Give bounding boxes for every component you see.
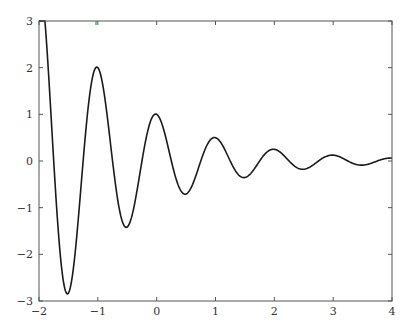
- axis-ticks: [39, 21, 392, 301]
- x-tick-label: 4: [389, 305, 396, 318]
- line-chart: −2−101234 3210−1−2−3: [0, 0, 417, 335]
- y-tick-label: −2: [17, 248, 33, 261]
- y-tick-label: 3: [26, 15, 33, 28]
- x-tick-label: −1: [90, 305, 106, 318]
- x-tick-label: 2: [271, 305, 278, 318]
- y-tick-label: 1: [26, 108, 33, 121]
- y-tick-label: −3: [17, 295, 33, 308]
- x-tick-label: 0: [153, 305, 160, 318]
- y-tick-label: 2: [26, 62, 33, 75]
- x-tick-label: 1: [212, 305, 219, 318]
- x-axis-tick-labels: −2−101234: [31, 305, 396, 318]
- y-axis-tick-labels: 3210−1−2−3: [17, 15, 33, 308]
- data-series-line: [39, 21, 392, 294]
- x-tick-label: 3: [330, 305, 337, 318]
- y-tick-label: −1: [17, 202, 33, 215]
- y-tick-label: 0: [26, 155, 33, 168]
- x-tick-label: −2: [31, 305, 47, 318]
- plot-frame: [39, 21, 392, 301]
